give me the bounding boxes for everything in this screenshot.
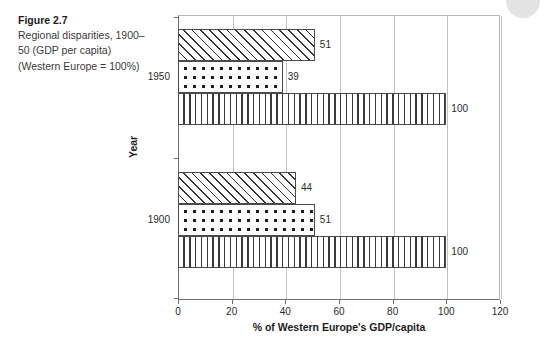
bar-value-label: 51 <box>320 214 331 225</box>
bar-1950-diagonal <box>178 29 315 61</box>
x-tick-mark <box>393 300 394 304</box>
x-tick-label: 60 <box>319 306 359 317</box>
y-tick-mark <box>174 17 178 18</box>
x-tick-label: 120 <box>480 306 520 317</box>
y-tick-mark <box>174 298 178 299</box>
x-tick-mark <box>500 300 501 304</box>
bar-value-label: 51 <box>320 39 331 50</box>
bar-value-label: 39 <box>288 71 299 82</box>
bar-chart-figure: Year % of Western Europe's GDP/capita 02… <box>0 0 552 342</box>
bar-1950-vertical <box>178 93 446 125</box>
y-tick-mark <box>174 158 178 159</box>
bar-value-label: 100 <box>451 103 468 114</box>
bar-value-label: 44 <box>301 182 312 193</box>
x-tick-label: 80 <box>373 306 413 317</box>
x-gridline <box>447 16 448 299</box>
x-tick-mark <box>232 300 233 304</box>
x-tick-label: 20 <box>212 306 252 317</box>
x-tick-label: 0 <box>158 306 198 317</box>
x-tick-mark <box>446 300 447 304</box>
x-axis-label: % of Western Europe's GDP/capita <box>178 321 500 333</box>
y-tick-label-1950: 1950 <box>138 71 170 82</box>
bar-value-label: 100 <box>451 246 468 257</box>
bar-1900-diagonal <box>178 172 296 204</box>
bar-1900-vertical <box>178 236 446 268</box>
y-tick-label-1900: 1900 <box>138 214 170 225</box>
x-tick-mark <box>339 300 340 304</box>
y-axis-label: Year <box>127 136 139 158</box>
x-tick-label: 100 <box>426 306 466 317</box>
x-gridline <box>501 16 502 299</box>
bar-1950-dots <box>178 61 283 93</box>
bar-1900-dots <box>178 204 315 236</box>
x-tick-mark <box>285 300 286 304</box>
x-tick-label: 40 <box>265 306 305 317</box>
x-tick-mark <box>178 300 179 304</box>
